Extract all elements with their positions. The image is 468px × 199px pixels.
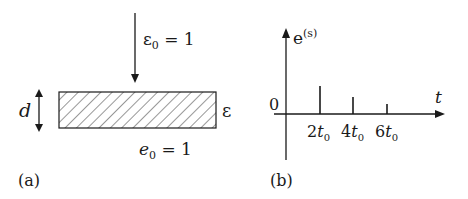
y-axis-label: e(s) [293, 27, 317, 48]
dielectric-slab [59, 92, 216, 128]
panel-a: ε0 = 1 d ε e0 = 1 (a) [18, 13, 231, 190]
arrowhead-down-icon [131, 74, 139, 83]
panel-b: e(s) t 0 2t0 4t0 6t0 (b) [269, 27, 445, 190]
thickness-label: d [19, 99, 31, 121]
diagram-canvas: ε0 = 1 d ε e0 = 1 (a) e(s) t 0 2t0 4t0 6… [0, 0, 468, 199]
tick-label-2t0: 2t0 [307, 122, 330, 143]
arrowhead-down-icon [35, 124, 43, 132]
panel-b-label: (b) [270, 171, 293, 190]
panel-a-label: (a) [18, 171, 40, 190]
tick-label-4t0: 4t0 [341, 122, 364, 143]
tick-label-6t0: 6t0 [375, 122, 398, 143]
incident-label: ε0 = 1 [143, 29, 195, 52]
thickness-arrow [35, 89, 43, 132]
slab-permittivity-label: ε [222, 100, 231, 121]
x-axis-label: t [435, 87, 442, 107]
arrowhead-right-icon [435, 110, 445, 118]
bottom-label: e0 = 1 [139, 139, 192, 162]
origin-label: 0 [269, 95, 279, 114]
incident-arrow [131, 13, 139, 83]
arrowhead-up-icon [282, 28, 290, 38]
arrowhead-up-icon [35, 89, 43, 97]
